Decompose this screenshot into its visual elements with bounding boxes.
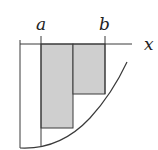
label-x-axis: x — [144, 34, 154, 54]
rectangle-right — [73, 44, 105, 94]
rectangle-left — [41, 44, 73, 128]
label-b: b — [99, 14, 110, 34]
label-a: a — [36, 14, 46, 34]
riemann-sum-diagram: a b x — [0, 0, 158, 150]
